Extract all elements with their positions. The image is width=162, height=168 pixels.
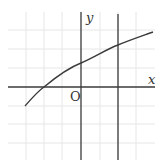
y-axis-label: y bbox=[85, 10, 94, 25]
x-axis-label: x bbox=[148, 72, 156, 87]
origin-label: O bbox=[70, 89, 81, 104]
function-graph: y x O bbox=[0, 0, 162, 168]
